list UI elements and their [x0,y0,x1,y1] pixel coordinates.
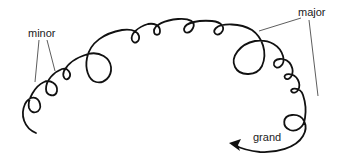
major-leader-2 [309,20,318,96]
arrow-head-icon [229,139,241,151]
minor-leader-1 [35,40,39,82]
minor-label: minor [28,27,56,39]
minor-leader-2 [47,40,55,71]
grand-label: grand [253,131,281,143]
coil-diagram: minor major grand [0,0,344,164]
major-leader-1 [259,18,301,31]
major-label: major [298,6,326,18]
